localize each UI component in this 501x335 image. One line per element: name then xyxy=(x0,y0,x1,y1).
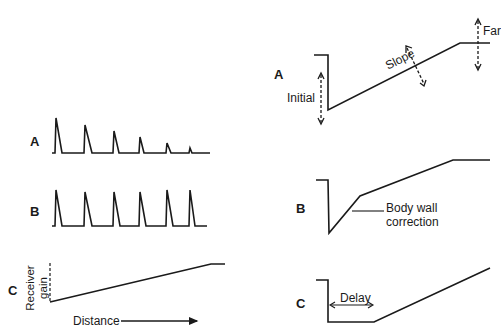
label-delay: Delay xyxy=(340,291,371,305)
receiver-gain-curve xyxy=(50,263,225,321)
label-body-wall-correction: Body wall correction xyxy=(386,201,439,229)
echo-trace-a xyxy=(52,118,210,153)
label-right-c: C xyxy=(296,296,305,311)
axis-label-line1: Receiver xyxy=(24,258,37,318)
diagram-canvas xyxy=(0,0,501,335)
label-body-wall-line1: Body wall xyxy=(386,201,439,215)
label-right-b: B xyxy=(296,201,305,216)
axis-label-line2: gain xyxy=(37,258,50,318)
label-left-a: A xyxy=(30,134,39,149)
label-left-b: B xyxy=(30,204,39,219)
tgc-curve-a xyxy=(314,19,490,124)
label-left-c: C xyxy=(8,283,17,298)
label-body-wall-line2: correction xyxy=(386,215,439,229)
label-far: Far xyxy=(483,24,501,38)
label-initial: Initial xyxy=(287,91,315,105)
echo-trace-b xyxy=(52,190,207,226)
axis-label-receiver-gain: Receiver gain xyxy=(24,258,50,318)
axis-label-distance: Distance xyxy=(73,314,120,328)
label-right-a: A xyxy=(274,67,283,82)
